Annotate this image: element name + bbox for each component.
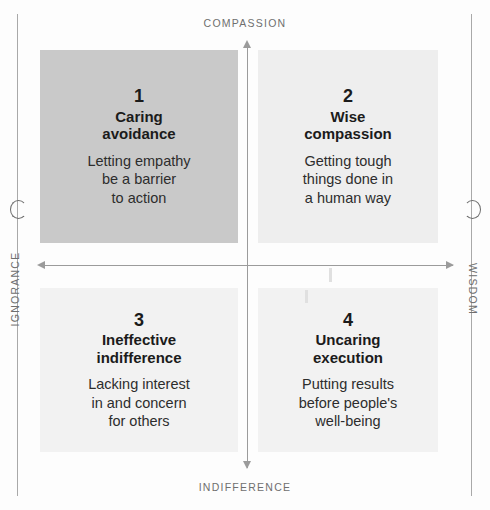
quadrant-number: 2 [343, 86, 353, 107]
axis-arrow-down-icon [243, 461, 251, 469]
quadrant-description: Lacking interest in and concern for othe… [88, 375, 190, 430]
axis-arrow-left-icon [37, 261, 45, 269]
quadrant-title-line-1: Ineffective [96, 331, 181, 349]
axis-arrow-up-icon [243, 40, 251, 48]
compassion-wisdom-matrix: IGNORANCE WISDOM COMPASSION INDIFFERENCE… [0, 0, 490, 510]
quadrant-title-line-1: Caring [102, 108, 175, 126]
axis-arrow-right-icon [446, 261, 454, 269]
left-rail-arc-marker-icon [10, 200, 27, 219]
quadrant-description: Letting empathy be a barrier to action [87, 152, 190, 207]
quadrant-2-wise-compassion: 2 Wise compassion Getting tough things d… [258, 50, 438, 243]
vertical-axis-line [247, 46, 248, 468]
quadrant-title: Caring avoidance [102, 108, 175, 143]
quadrant-desc-line-3: a human way [303, 189, 393, 207]
scan-artifact-mark [329, 268, 332, 282]
quadrant-title-line-2: avoidance [102, 125, 175, 143]
axis-label-ignorance: IGNORANCE [9, 252, 21, 327]
quadrant-desc-line-3: to action [87, 189, 190, 207]
axis-label-compassion: COMPASSION [0, 17, 490, 29]
quadrant-desc-line-3: well-being [299, 412, 398, 430]
quadrant-desc-line-3: for others [88, 412, 190, 430]
quadrant-4-uncaring-execution: 4 Uncaring execution Putting results bef… [258, 288, 438, 452]
quadrant-desc-line-2: in and concern [88, 394, 190, 412]
quadrant-description: Putting results before people's well-bei… [299, 375, 398, 430]
quadrant-title-line-1: Uncaring [313, 331, 383, 349]
quadrant-desc-line-2: things done in [303, 170, 393, 188]
axis-label-wisdom: WISDOM [467, 263, 479, 315]
quadrant-desc-line-2: before people's [299, 394, 398, 412]
quadrant-title: Wise compassion [304, 108, 392, 143]
quadrant-number: 3 [134, 310, 144, 331]
scan-artifact-mark [305, 290, 308, 303]
quadrant-3-ineffective-indifference: 3 Ineffective indifference Lacking inter… [40, 288, 238, 452]
quadrant-1-caring-avoidance: 1 Caring avoidance Letting empathy be a … [40, 50, 238, 243]
right-rail-arc-marker-icon [464, 200, 481, 219]
quadrant-title: Uncaring execution [313, 331, 383, 366]
quadrant-title: Ineffective indifference [96, 331, 181, 366]
quadrant-desc-line-1: Lacking interest [88, 375, 190, 393]
quadrant-title-line-2: execution [313, 349, 383, 367]
quadrant-title-line-2: compassion [304, 125, 392, 143]
quadrant-title-line-1: Wise [304, 108, 392, 126]
quadrant-desc-line-1: Getting tough [303, 152, 393, 170]
quadrant-number: 1 [134, 86, 144, 107]
horizontal-axis-line [43, 265, 453, 266]
quadrant-number: 4 [343, 310, 353, 331]
quadrant-description: Getting tough things done in a human way [303, 152, 393, 207]
axis-label-indifference: INDIFFERENCE [0, 481, 490, 493]
quadrant-desc-line-1: Letting empathy [87, 152, 190, 170]
quadrant-desc-line-1: Putting results [299, 375, 398, 393]
quadrant-title-line-2: indifference [96, 349, 181, 367]
quadrant-desc-line-2: be a barrier [87, 170, 190, 188]
right-rail [471, 14, 472, 496]
